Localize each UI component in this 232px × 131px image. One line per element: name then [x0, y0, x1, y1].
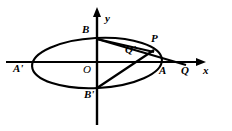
point-label-a: A [159, 65, 166, 76]
point-label-b-prime: B' [84, 89, 94, 100]
point-label-b: B [82, 24, 89, 35]
point-label-q-prime: Q' [125, 44, 136, 55]
x-axis-label: x [203, 65, 209, 76]
origin-label: O [83, 64, 91, 75]
point-label-q: Q [181, 65, 189, 76]
point-label-a-prime: A' [13, 63, 23, 74]
y-axis-label: y [105, 13, 110, 24]
point-label-p: P [151, 33, 158, 44]
segment-bprime-to-p [97, 50, 154, 88]
geometry-figure: A' A B B' P Q' Q O y x [0, 0, 232, 131]
figure-canvas [0, 0, 232, 131]
